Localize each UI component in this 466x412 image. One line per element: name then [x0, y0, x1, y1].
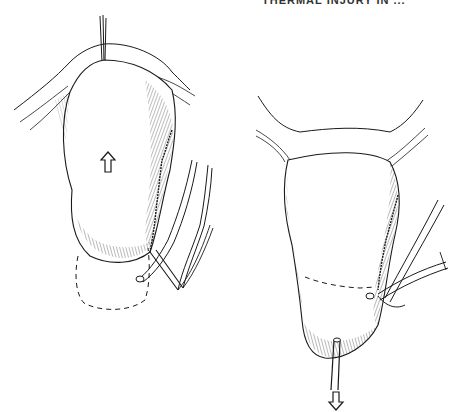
illustration-canvas: [0, 0, 466, 412]
down-arrow-icon: [329, 392, 343, 410]
peritoneal-fold-right: [258, 96, 423, 132]
traction-suture: [100, 15, 106, 62]
right-figure: [256, 96, 448, 410]
left-figure: [14, 15, 213, 309]
